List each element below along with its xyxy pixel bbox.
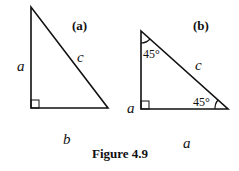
top-angle-label: 45° xyxy=(143,48,160,60)
panel-b-tag: (b) xyxy=(193,19,209,32)
side-a-label-b-vertical: a xyxy=(127,101,135,116)
angle-arc-bottom xyxy=(215,100,218,109)
figure-4-9: (a) a c b (b) 45° c 45° a a Figure 4.9 xyxy=(0,0,239,171)
panel-a-tag: (a) xyxy=(72,19,87,32)
right-angle-marker-b xyxy=(141,101,149,109)
side-b-label: b xyxy=(63,132,71,147)
triangle-b xyxy=(141,31,228,109)
side-a-label: a xyxy=(17,59,25,74)
side-a-label-b-horizontal: a xyxy=(183,136,191,151)
hypotenuse-c-label-b: c xyxy=(195,58,202,73)
bottom-angle-label: 45° xyxy=(193,96,210,108)
triangle-a xyxy=(31,7,108,108)
right-angle-marker-a xyxy=(31,100,39,108)
hypotenuse-c-label: c xyxy=(77,50,84,65)
angle-arc-top xyxy=(141,39,150,43)
figure-caption: Figure 4.9 xyxy=(92,147,148,160)
